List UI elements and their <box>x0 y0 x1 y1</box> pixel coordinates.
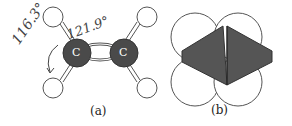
carbon-label: C <box>119 46 127 59</box>
figure-a-caption: (a) <box>90 104 107 118</box>
carbon-label: C <box>72 46 80 59</box>
angle-arrow <box>47 45 58 73</box>
figure-b-caption: (b) <box>211 103 228 117</box>
hydrogen-atom <box>137 7 157 27</box>
figure-b-orbitals <box>171 13 272 106</box>
hydrogen-atom <box>43 78 63 98</box>
hydrogen-atom <box>137 78 157 98</box>
ethylene-figure <box>0 0 292 126</box>
